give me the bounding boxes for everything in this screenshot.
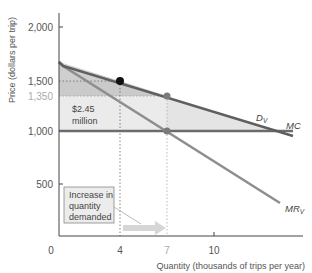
consumer-surplus-area [59, 62, 120, 81]
mr-label: MRV [285, 203, 305, 215]
increase-leader-line [114, 207, 141, 224]
increase-label-line1: Increase in [69, 190, 113, 200]
demand-label: DV [256, 112, 268, 124]
point-4-1500 [116, 77, 124, 85]
y-tick-label-1350: 1,350 [28, 91, 53, 102]
x-tick-label-0: 0 [48, 245, 54, 256]
point-7-1350 [164, 93, 171, 100]
y-tick-label-2000: 2,000 [28, 22, 53, 33]
x-tick-label-4: 4 [117, 245, 123, 256]
x-tick-label-10: 10 [208, 245, 220, 256]
point-7-1000 [164, 128, 171, 135]
y-tick-label-500: 500 [36, 179, 53, 190]
y-axis-title: Price (dollars per trip) [7, 17, 17, 103]
chart: 2,000 1,500 1,350 1,000 500 0 4 7 10 Pri… [0, 0, 312, 273]
revenue-label-line2: million [72, 116, 98, 126]
x-tick-label-7: 7 [164, 245, 170, 256]
y-tick-label-1500: 1,500 [28, 76, 53, 87]
increase-label-line2: quantity [69, 201, 101, 211]
mc-label: MC [286, 120, 301, 131]
increase-label-line3: demanded [69, 212, 112, 222]
y-tick-label-1000: 1,000 [28, 126, 53, 137]
increase-arrow-icon [123, 221, 166, 235]
revenue-label-line1: $2.45 [72, 104, 95, 114]
x-axis-title: Quantity (thousands of trips per year) [156, 261, 305, 271]
